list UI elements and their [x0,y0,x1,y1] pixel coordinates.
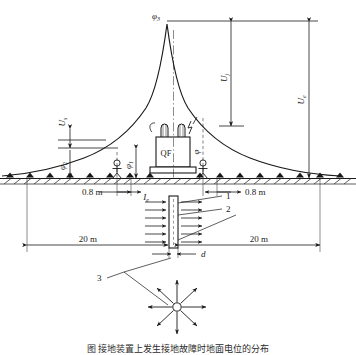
touch-voltage-dimension: Uj [219,22,244,126]
svg-text:φ1: φ1 [123,161,134,169]
phi-dimension: φ [191,149,201,154]
earth-current-label: Ie [142,192,149,203]
svg-text:Us: Us [57,117,68,127]
breaker-label: QF [161,148,172,158]
svg-text:Ue: Ue [296,95,307,105]
right-span-label: 20 m [250,234,268,244]
left-step-distance-label: 0.8 m [82,187,103,197]
electrode-diameter-dimension: d [152,248,206,259]
phi3-peak-label: φ3 [152,11,160,22]
left-span-label: 20 m [79,234,97,244]
diameter-label: d [201,249,206,259]
step-voltage-dimension: Us [57,117,118,148]
callout-3-leader [107,258,171,305]
svg-text:φ3: φ3 [152,11,160,22]
ground-surface [0,173,356,184]
svg-text:Uj: Uj [219,74,230,83]
grounding-electrode [169,196,178,248]
figure-caption: 图 接地装置上发生接地故障时地面电位的分布 [0,342,356,355]
svg-text:Ie: Ie [142,192,149,203]
callout-2-label: 2 [226,204,231,214]
svg-text:φ2: φ2 [57,162,68,170]
callout-3-label: 3 [97,273,102,283]
right-step-distance-label: 0.8 m [245,187,266,197]
radial-current-symbol [148,280,206,334]
svg-text:φ: φ [191,149,201,154]
callout-1-label: 1 [226,191,231,201]
earth-voltage-dimension: Ue [296,22,309,178]
